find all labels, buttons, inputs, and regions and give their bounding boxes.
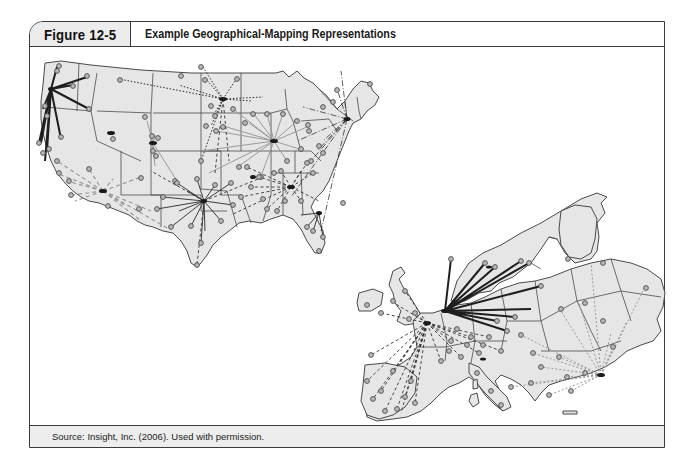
figure-header: Figure 12-5 Example Geographical-Mapping… bbox=[30, 22, 664, 47]
source-text: Source: Insight, Inc. (2006). Used with … bbox=[52, 431, 264, 442]
us-map bbox=[37, 61, 379, 267]
figure-title: Example Geographical-Mapping Representat… bbox=[131, 22, 437, 46]
figure-source: Source: Insight, Inc. (2006). Used with … bbox=[30, 425, 664, 447]
figure-canvas bbox=[30, 46, 666, 427]
sardinia bbox=[469, 393, 479, 407]
crete bbox=[563, 411, 577, 414]
figure-title-text: Example Geographical-Mapping Representat… bbox=[145, 27, 396, 41]
corsica bbox=[473, 379, 478, 389]
figure-frame: Figure 12-5 Example Geographical-Mapping… bbox=[29, 21, 665, 448]
figure-number: Figure 12-5 bbox=[30, 22, 131, 46]
figure-number-text: Figure 12-5 bbox=[44, 26, 116, 43]
finland bbox=[559, 205, 597, 259]
us-land-outline bbox=[41, 61, 379, 267]
europe-map bbox=[357, 193, 665, 421]
ireland bbox=[357, 289, 383, 311]
